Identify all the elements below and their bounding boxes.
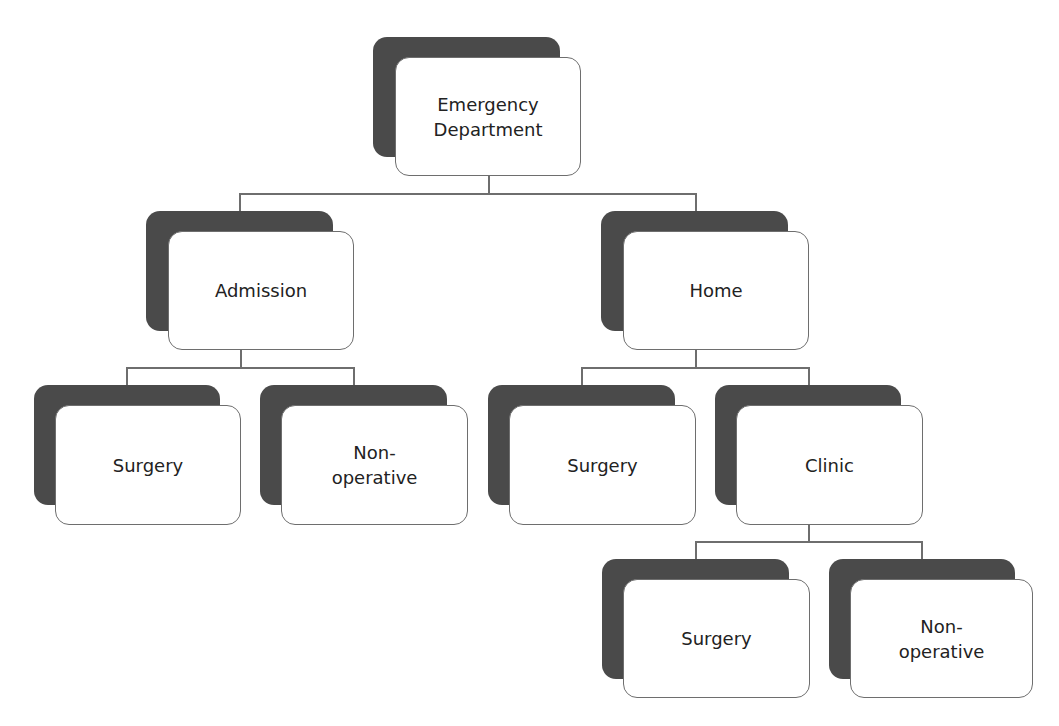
connector-to-admission-nonoperative [353,367,355,386]
node-clinic-nonoperative: Non- operative [850,579,1033,698]
node-admission-nonoperative: Non- operative [281,405,468,525]
node-label: Surgery [113,453,183,478]
connector-to-clinic-surgery [695,541,697,560]
node-home-surgery: Surgery [509,405,696,525]
connector-admission-horizontal [126,367,354,369]
connector-to-home [695,193,697,212]
connector-home-horizontal [581,367,809,369]
connector-to-home-surgery [581,367,583,386]
connector-to-clinic-nonoperative [921,541,923,560]
node-label: Non- operative [899,614,985,664]
node-admission-surgery: Surgery [55,405,241,525]
node-label: Emergency Department [434,92,543,142]
connector-to-admission-surgery [126,367,128,386]
connector-to-admission [239,193,241,212]
node-admission: Admission [168,231,354,350]
node-label: Admission [215,278,307,303]
connector-clinic-horizontal [695,541,922,543]
connector-clinic-down [808,524,810,542]
node-label: Clinic [805,453,854,478]
node-clinic: Clinic [736,405,923,525]
connector-ed-horizontal [239,193,696,195]
connector-to-clinic [808,367,810,386]
node-home: Home [623,231,809,350]
node-clinic-surgery: Surgery [623,579,810,698]
connector-admission-down [240,350,242,368]
connector-ed-down [488,176,490,194]
node-label: Non- operative [332,440,418,490]
flowchart-diagram: Emergency Department Admission Home Surg… [0,0,1059,726]
connector-home-down [695,350,697,368]
node-label: Surgery [681,626,751,651]
node-label: Surgery [567,453,637,478]
node-emergency-department: Emergency Department [395,57,581,176]
node-label: Home [689,278,742,303]
